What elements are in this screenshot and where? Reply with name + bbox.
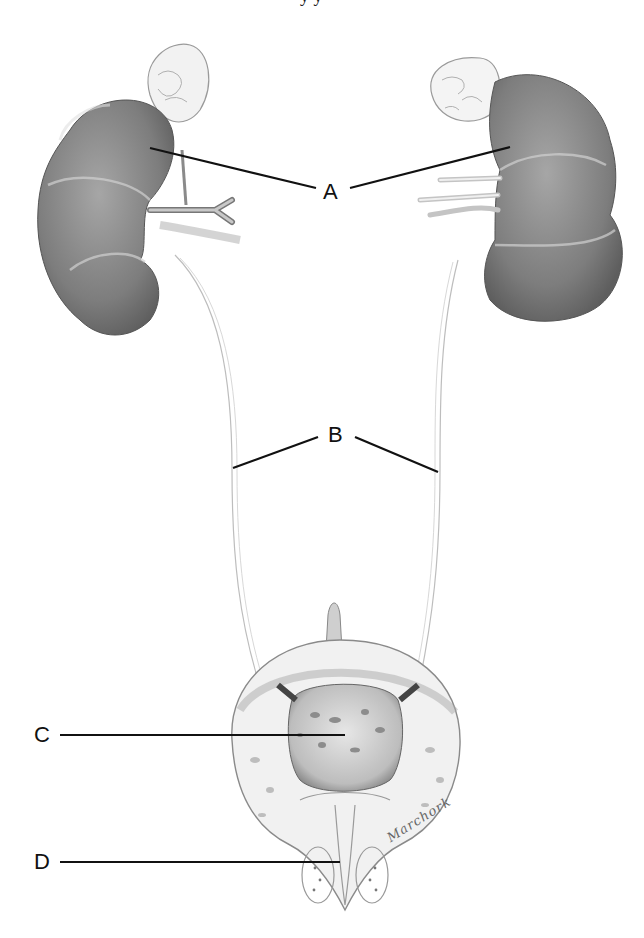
leader-line-b-left xyxy=(233,437,318,468)
label-a: A xyxy=(323,181,338,203)
label-c: C xyxy=(34,724,50,746)
left-kidney xyxy=(38,100,174,335)
urinary-system-diagram: y y xyxy=(0,0,644,938)
right-renal-vessels xyxy=(420,178,500,215)
leader-line-a-left xyxy=(150,148,316,188)
left-ureter xyxy=(175,255,263,680)
leader-line-a-right xyxy=(350,147,510,188)
label-d: D xyxy=(34,851,50,873)
right-kidney xyxy=(485,75,623,322)
leader-line-b-right xyxy=(355,437,438,472)
right-ureter xyxy=(415,260,458,680)
anatomy-illustration xyxy=(0,0,644,938)
cropped-caption-fragment: y y xyxy=(300,0,323,7)
label-b: B xyxy=(328,424,343,446)
